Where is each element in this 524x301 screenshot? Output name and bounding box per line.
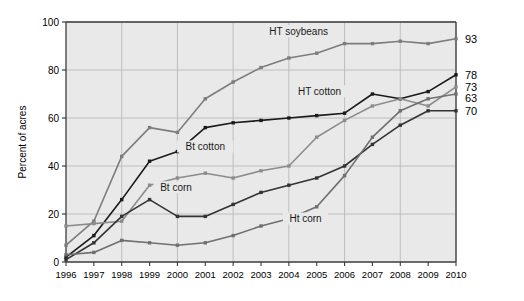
data-point-marker xyxy=(231,176,234,179)
series-label-text: Ht corn xyxy=(289,213,321,224)
data-point-marker xyxy=(204,215,207,218)
y-tick-label: 20 xyxy=(48,209,60,220)
data-point-marker xyxy=(315,136,318,139)
series-label-text: Bt corn xyxy=(160,182,192,193)
x-tick-label: 2006 xyxy=(334,269,355,280)
data-point-marker xyxy=(204,126,207,129)
data-point-marker xyxy=(64,253,67,256)
data-point-marker xyxy=(148,160,151,163)
data-point-marker xyxy=(343,42,346,45)
data-point-marker xyxy=(120,239,123,242)
data-point-marker xyxy=(148,241,151,244)
x-tick-label: 1997 xyxy=(83,269,104,280)
x-tick-label: 2007 xyxy=(362,269,383,280)
data-point-marker xyxy=(259,169,262,172)
data-point-marker xyxy=(371,136,374,139)
data-point-marker xyxy=(287,116,290,119)
data-point-marker xyxy=(454,37,457,40)
data-point-marker xyxy=(315,114,318,117)
data-point-marker xyxy=(148,126,151,129)
y-tick-label: 40 xyxy=(48,161,60,172)
data-point-marker xyxy=(64,224,67,227)
x-tick-label: 2004 xyxy=(278,269,299,280)
data-point-marker xyxy=(204,241,207,244)
series-label: Bt corn xyxy=(153,181,198,193)
data-point-marker xyxy=(399,97,402,100)
data-point-marker xyxy=(371,143,374,146)
end-value-label: 70 xyxy=(465,105,477,117)
data-point-marker xyxy=(454,85,457,88)
data-point-marker xyxy=(120,198,123,201)
data-point-marker xyxy=(176,176,179,179)
data-point-marker xyxy=(92,241,95,244)
data-point-marker xyxy=(204,172,207,175)
y-tick-label: 60 xyxy=(48,113,60,124)
data-point-marker xyxy=(371,42,374,45)
data-point-marker xyxy=(343,119,346,122)
x-tick-label: 2000 xyxy=(167,269,188,280)
data-point-marker xyxy=(231,80,234,83)
data-point-marker xyxy=(287,164,290,167)
data-point-marker xyxy=(259,224,262,227)
x-tick-label: 1996 xyxy=(55,269,76,280)
data-point-marker xyxy=(399,40,402,43)
data-point-marker xyxy=(176,244,179,247)
data-point-marker xyxy=(176,215,179,218)
data-point-marker xyxy=(204,97,207,100)
data-point-marker xyxy=(287,184,290,187)
data-point-marker xyxy=(120,220,123,223)
series-label: HT soybeans xyxy=(265,25,333,37)
end-value-label: 73 xyxy=(465,81,477,93)
x-tick-label: 2002 xyxy=(223,269,244,280)
x-tick-label: 1998 xyxy=(111,269,132,280)
data-point-marker xyxy=(454,92,457,95)
data-point-marker xyxy=(454,109,457,112)
data-point-marker xyxy=(399,109,402,112)
data-point-marker xyxy=(343,112,346,115)
data-point-marker xyxy=(371,92,374,95)
data-point-marker xyxy=(426,104,429,107)
y-tick-label: 0 xyxy=(53,257,59,268)
chart-canvas: 020406080100 199619971998199920002001200… xyxy=(0,0,524,301)
data-point-marker xyxy=(426,109,429,112)
data-point-marker xyxy=(64,258,67,261)
series-label-text: HT cotton xyxy=(298,86,341,97)
data-point-marker xyxy=(259,191,262,194)
data-point-marker xyxy=(120,155,123,158)
data-point-marker xyxy=(371,104,374,107)
data-point-marker xyxy=(287,56,290,59)
x-tick-label: 2001 xyxy=(195,269,216,280)
data-point-marker xyxy=(259,66,262,69)
end-value-label: 93 xyxy=(465,33,477,45)
data-point-marker xyxy=(176,131,179,134)
data-point-marker xyxy=(92,251,95,254)
y-tick-label: 80 xyxy=(48,65,60,76)
x-tick-label: 2008 xyxy=(390,269,411,280)
data-point-marker xyxy=(426,42,429,45)
data-point-marker xyxy=(343,164,346,167)
data-point-marker xyxy=(64,244,67,247)
x-tick-label: 2009 xyxy=(418,269,439,280)
data-point-marker xyxy=(92,222,95,225)
x-tick-label: 2005 xyxy=(306,269,327,280)
x-tick-label: 2003 xyxy=(250,269,271,280)
x-tick-label: 2010 xyxy=(445,269,466,280)
data-point-marker xyxy=(454,73,457,76)
data-point-marker xyxy=(231,121,234,124)
data-point-marker xyxy=(231,234,234,237)
line-chart: 020406080100 199619971998199920002001200… xyxy=(0,0,524,301)
data-point-marker xyxy=(315,205,318,208)
data-point-marker xyxy=(426,97,429,100)
end-value-label: 78 xyxy=(465,69,477,81)
series-label-text: Bt cotton xyxy=(186,141,225,152)
data-point-marker xyxy=(231,203,234,206)
end-value-label: 63 xyxy=(465,92,477,104)
data-point-marker xyxy=(148,184,151,187)
series-label: HT cotton xyxy=(291,85,347,97)
data-point-marker xyxy=(343,174,346,177)
data-point-marker xyxy=(92,234,95,237)
data-point-marker xyxy=(315,176,318,179)
series-label: Bt cotton xyxy=(177,141,233,153)
series-label: Ht corn xyxy=(283,213,328,225)
y-axis-title: Percent of acres xyxy=(17,106,28,179)
